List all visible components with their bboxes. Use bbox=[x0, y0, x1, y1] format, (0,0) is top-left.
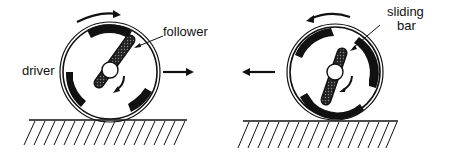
sliding-bar-label-line1: sliding bbox=[387, 5, 424, 18]
wheel-rotation-arrow-left bbox=[77, 10, 121, 22]
ground-right bbox=[238, 121, 398, 148]
diagram-canvas bbox=[0, 0, 449, 164]
bar-rotation-arrowhead bbox=[339, 87, 346, 92]
right-wheel bbox=[287, 24, 383, 120]
follower-label: follower bbox=[163, 25, 208, 38]
hub bbox=[327, 64, 343, 80]
motion-arrow-right bbox=[163, 68, 194, 76]
hub bbox=[102, 62, 118, 78]
driver-segment-left bbox=[66, 72, 86, 107]
wheel-rotation-arrow-right bbox=[306, 14, 350, 23]
left-wheel bbox=[60, 22, 160, 122]
driver-label: driver bbox=[22, 64, 55, 77]
driver-segment-top bbox=[87, 24, 132, 38]
ground-left bbox=[24, 120, 187, 145]
sliding-bar-label-line2: bar bbox=[397, 19, 416, 32]
motion-arrow-left bbox=[242, 68, 275, 76]
